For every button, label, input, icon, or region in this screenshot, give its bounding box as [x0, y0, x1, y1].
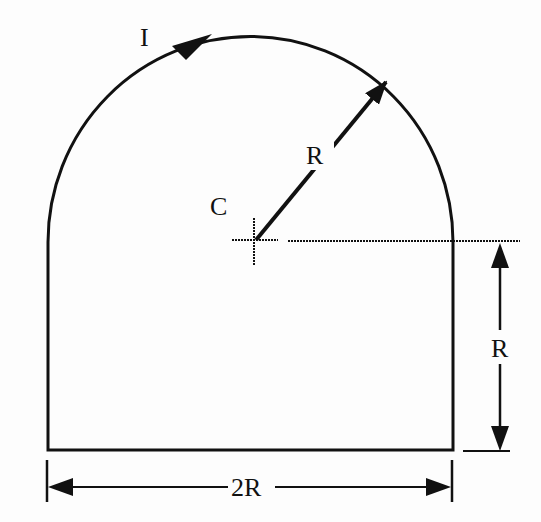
current-label: I: [140, 23, 149, 52]
radius-label: R: [306, 141, 324, 170]
loop-diagram: I C R R 2R: [0, 0, 541, 522]
width-arrow-right: [426, 478, 451, 496]
height-arrow-down: [491, 426, 509, 451]
height-label: R: [491, 334, 509, 363]
height-arrow-up: [491, 243, 509, 268]
current-loop: [48, 36, 453, 450]
center-label: C: [210, 192, 227, 221]
current-direction-arrow: [172, 34, 212, 60]
width-arrow-left: [48, 478, 73, 496]
width-label: 2R: [231, 473, 262, 502]
